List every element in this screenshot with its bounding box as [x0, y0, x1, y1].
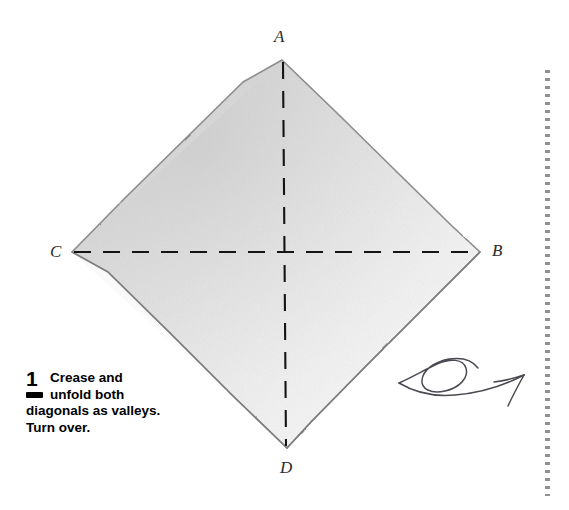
valley-fold-dash-icon	[26, 392, 43, 398]
vertex-label-d: D	[280, 459, 292, 476]
diagram-page: A B C D 1 Crease and unfold both diagona…	[0, 0, 569, 510]
step-number: 1	[26, 368, 38, 389]
vertex-label-c: C	[50, 243, 61, 260]
step-caption-text: Crease and unfold both diagonals as vall…	[26, 370, 204, 436]
caption-line-4: Turn over.	[26, 420, 204, 437]
page-divider-dotted-rule	[545, 70, 550, 496]
caption-line-1: Crease and	[26, 370, 204, 387]
turn-over-arrow	[399, 358, 524, 406]
vertex-label-a: A	[274, 28, 284, 45]
caption-line-2: unfold both	[26, 387, 204, 404]
step-caption-header: 1 Crease and unfold both diagonals as va…	[26, 370, 204, 436]
step-caption: 1 Crease and unfold both diagonals as va…	[26, 370, 204, 436]
vertex-label-b: B	[492, 242, 502, 259]
caption-line-3: diagonals as valleys.	[26, 403, 204, 420]
